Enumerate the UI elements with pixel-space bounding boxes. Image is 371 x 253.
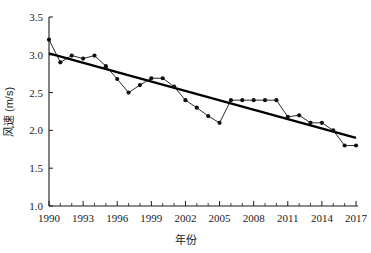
data-point-markers — [47, 38, 358, 148]
data-point-marker — [47, 38, 51, 42]
chart-svg: 1.01.52.02.53.03.5 199019931996199920022… — [0, 0, 371, 253]
x-axis-title: 年份 — [175, 233, 197, 246]
x-tick-label: 1993 — [72, 212, 95, 224]
data-point-marker — [149, 76, 153, 80]
data-point-marker — [229, 98, 233, 102]
data-point-marker — [297, 113, 301, 117]
x-tick-label: 1999 — [140, 212, 163, 224]
data-point-marker — [217, 121, 221, 125]
x-tick-label: 2008 — [243, 212, 266, 224]
axis-lines — [49, 17, 358, 206]
x-tick-label: 2005 — [209, 212, 232, 224]
data-point-marker — [252, 98, 256, 102]
x-tick-label: 1990 — [38, 212, 61, 224]
data-point-marker — [92, 53, 96, 57]
y-tick-label: 3.0 — [29, 49, 43, 61]
data-point-marker — [81, 56, 85, 60]
y-tick-label: 2.5 — [29, 87, 43, 99]
data-point-marker — [354, 143, 358, 147]
data-point-marker — [331, 128, 335, 132]
data-point-marker — [320, 121, 324, 125]
data-point-marker — [308, 121, 312, 125]
trend-line — [49, 53, 356, 138]
y-tick-label: 1.5 — [29, 162, 43, 174]
data-point-marker — [70, 53, 74, 57]
data-point-marker — [126, 91, 130, 95]
x-tick-label: 2014 — [311, 212, 334, 224]
data-point-marker — [195, 106, 199, 110]
data-point-marker — [104, 64, 108, 68]
data-point-marker — [183, 98, 187, 102]
data-point-marker — [206, 114, 210, 118]
y-axis-title: 风速 (m/s) — [3, 87, 15, 137]
y-tick-label: 1.0 — [29, 200, 43, 212]
y-axis-tick-labels: 1.01.52.02.53.03.5 — [29, 11, 43, 212]
data-point-marker — [263, 98, 267, 102]
data-point-marker — [161, 76, 165, 80]
wind-speed-chart: 1.01.52.02.53.03.5 199019931996199920022… — [0, 0, 371, 253]
x-tick-label: 2017 — [345, 212, 368, 224]
data-point-marker — [172, 84, 176, 88]
y-tick-label: 3.5 — [29, 11, 43, 23]
data-point-marker — [274, 98, 278, 102]
data-point-marker — [286, 115, 290, 119]
x-tick-label: 1996 — [106, 212, 129, 224]
x-tick-label: 2011 — [277, 212, 299, 224]
data-point-marker — [115, 77, 119, 81]
data-point-marker — [58, 60, 62, 64]
y-tick-label: 2.0 — [29, 124, 43, 136]
data-point-marker — [240, 98, 244, 102]
x-tick-label: 2002 — [174, 212, 196, 224]
data-point-marker — [343, 143, 347, 147]
x-axis-tick-labels: 1990199319961999200220052008201120142017 — [38, 212, 368, 224]
data-point-marker — [138, 83, 142, 87]
